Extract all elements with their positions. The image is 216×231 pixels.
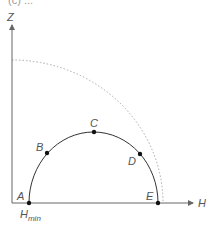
point-d-label: D (128, 155, 136, 167)
point-e (156, 201, 160, 205)
point-a-label: A (16, 190, 24, 202)
diagram-canvas: Z H A B C D E Hmin (0, 0, 216, 231)
hmin-subscript: min (28, 214, 41, 223)
point-b (45, 151, 49, 155)
hmin-label: Hmin (20, 208, 41, 223)
point-b-label: B (36, 141, 43, 153)
hmin-main: H (20, 208, 28, 220)
point-a (27, 201, 31, 205)
point-e-label: E (146, 190, 154, 202)
z-axis-label: Z (6, 11, 15, 23)
dotted-boundary-curve (12, 60, 163, 203)
point-c-label: C (90, 117, 98, 129)
solution-arc (29, 132, 158, 203)
point-c (92, 130, 96, 134)
point-d (138, 152, 142, 156)
h-axis-label: H (198, 197, 206, 209)
